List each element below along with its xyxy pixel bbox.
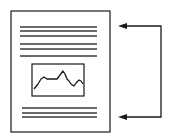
arrow-left-icon <box>118 23 127 29</box>
arrow-left-icon <box>118 114 127 120</box>
bracket-arrow <box>118 23 161 120</box>
embedded-chart-line <box>34 71 83 89</box>
document-diagram <box>0 0 171 140</box>
document-page <box>11 11 110 132</box>
top-text-block <box>20 27 97 56</box>
bracket-connector <box>126 26 161 117</box>
bottom-text-block <box>22 108 97 117</box>
diagram-canvas <box>0 0 171 140</box>
